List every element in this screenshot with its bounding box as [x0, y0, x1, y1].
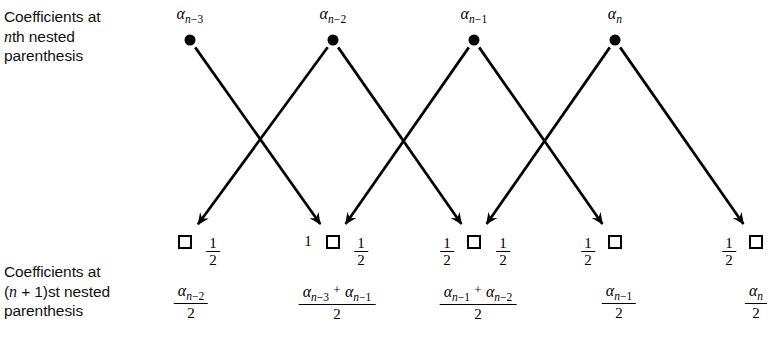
weight-numerator: 1 [206, 236, 220, 251]
edge-weight-w7: 12 [722, 236, 736, 268]
result-denominator: 2 [174, 303, 208, 322]
weight-numerator: 1 [354, 236, 368, 251]
square-marker-out-1[interactable] [178, 235, 192, 249]
bottom-row-caption: Coefficients at(n + 1)st nestedparenthes… [4, 262, 110, 321]
top-caption-line3: parenthesis [4, 47, 83, 64]
result-fraction-res-2: αn−3 + αn−12 [299, 283, 376, 322]
edge-arrow-layer [0, 0, 776, 337]
dot-marker-a-n-1[interactable] [469, 35, 480, 46]
result-numerator: αn−1 + αn−2 [440, 283, 517, 303]
top-caption-line2-italic: n [4, 28, 12, 45]
dot-marker-a-n-2[interactable] [328, 35, 339, 46]
edge-a-n-1-to-out-4 [479, 47, 602, 224]
weight-numerator: 1 [581, 236, 595, 251]
weight-numerator: 1 [496, 236, 510, 251]
square-marker-out-5[interactable] [749, 235, 763, 249]
bottom-caption-line2-rest: + 1)st nested [17, 283, 110, 300]
plus-operator: + [329, 282, 345, 297]
edge-a-n-to-out-5 [620, 47, 743, 224]
result-numerator: αn−2 [174, 283, 208, 302]
top-node-label-a-n: αn [608, 5, 622, 25]
result-denominator: 2 [299, 304, 376, 323]
weight-denominator: 2 [581, 251, 595, 268]
result-fraction-res-5: αn2 [745, 283, 767, 321]
square-marker-out-2[interactable] [326, 235, 340, 249]
result-fraction-res-3: αn−1 + αn−22 [440, 283, 517, 322]
result-fraction-res-1: αn−22 [174, 283, 208, 321]
weight-denominator: 2 [354, 251, 368, 268]
top-node-label-a-n-3: αn−3 [177, 5, 204, 25]
edge-a-n-3-to-out-2 [195, 47, 320, 224]
edge-a-n-2-to-out-1 [198, 47, 328, 224]
top-node-label-a-n-1: αn−1 [461, 5, 488, 25]
edge-a-n-to-out-3 [487, 47, 610, 224]
top-caption-line1: Coefficients at [4, 8, 100, 25]
weight-denominator: 2 [440, 251, 454, 268]
edge-weight-w4: 12 [440, 236, 454, 268]
square-marker-out-4[interactable] [608, 235, 622, 249]
result-numerator: αn [745, 283, 767, 302]
dot-marker-a-n[interactable] [610, 35, 621, 46]
weight-denominator: 2 [206, 251, 220, 268]
top-node-label-a-n-2: αn−2 [320, 5, 347, 25]
dot-marker-a-n-3[interactable] [185, 35, 196, 46]
bottom-caption-line1: Coefficients at [4, 263, 100, 280]
square-marker-out-3[interactable] [467, 235, 481, 249]
result-denominator: 2 [440, 304, 517, 323]
edge-weight-w3: 12 [354, 236, 368, 268]
weight-numerator: 1 [722, 236, 736, 251]
edge-weight-w2: 1 [304, 233, 312, 250]
edge-weight-w6: 12 [581, 236, 595, 268]
result-denominator: 2 [602, 303, 636, 322]
figure-canvas: Coefficients atnth nestedparenthesis Coe… [0, 0, 776, 337]
top-caption-line2-rest: th nested [12, 28, 75, 45]
plus-operator: + [470, 282, 486, 297]
result-numerator: αn−1 [602, 283, 636, 302]
edge-weight-w5: 12 [496, 236, 510, 268]
weight-denominator: 2 [722, 251, 736, 268]
top-row-caption: Coefficients atnth nestedparenthesis [4, 7, 100, 66]
result-denominator: 2 [745, 303, 767, 322]
result-numerator: αn−3 + αn−1 [299, 283, 376, 303]
result-fraction-res-4: αn−12 [602, 283, 636, 321]
edge-weight-w1: 12 [206, 236, 220, 268]
bottom-caption-line3: parenthesis [4, 302, 83, 319]
edge-a-n-2-to-out-3 [338, 47, 461, 224]
edge-a-n-1-to-out-2 [346, 47, 469, 224]
weight-numerator: 1 [440, 236, 454, 251]
bottom-caption-line2-italic: n [9, 283, 17, 300]
weight-denominator: 2 [496, 251, 510, 268]
